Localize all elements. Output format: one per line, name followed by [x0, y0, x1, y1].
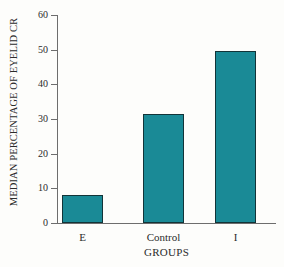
x-tick-label-i: I — [191, 231, 281, 244]
y-tick-mark-60 — [51, 15, 57, 16]
y-tick-mark-10 — [51, 188, 57, 189]
bar-i — [215, 51, 256, 223]
bar-e — [62, 195, 103, 223]
y-tick-label-40: 40 — [26, 79, 48, 89]
x-tick-label-e: E — [38, 231, 128, 244]
y-tick-label-50: 50 — [26, 45, 48, 55]
y-axis-line — [57, 15, 58, 224]
x-axis-line — [57, 223, 276, 224]
y-tick-label-0: 0 — [26, 218, 48, 228]
y-tick-mark-0 — [51, 223, 57, 224]
y-tick-mark-50 — [51, 50, 57, 51]
y-tick-label-60: 60 — [26, 10, 48, 20]
y-tick-mark-30 — [51, 119, 57, 120]
y-tick-label-20: 20 — [26, 149, 48, 159]
plot-area: 60 50 40 30 20 10 0 E Control I GROUPS — [0, 0, 284, 267]
y-tick-mark-40 — [51, 84, 57, 85]
y-tick-label-30: 30 — [26, 114, 48, 124]
y-tick-label-10: 10 — [26, 183, 48, 193]
x-axis-title: GROUPS — [57, 246, 276, 258]
bar-control — [143, 114, 184, 223]
bar-chart-figure: MEDIAN PERCENTAGE OF EYELID CR 60 50 40 … — [0, 0, 284, 267]
y-tick-mark-20 — [51, 154, 57, 155]
